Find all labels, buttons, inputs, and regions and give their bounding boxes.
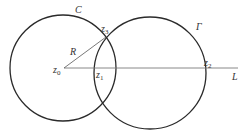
complex-plane-diagram: C Γ R L z0 z1 z2 z3 — [0, 0, 248, 137]
label-l: L — [231, 71, 238, 82]
circle-gamma — [94, 17, 206, 129]
point-z3: z3 — [100, 23, 109, 36]
point-z1: z1 — [95, 69, 104, 82]
label-r: R — [69, 46, 76, 57]
point-z0: z0 — [52, 64, 61, 77]
label-gamma: Γ — [195, 21, 202, 32]
label-c: C — [75, 4, 82, 15]
